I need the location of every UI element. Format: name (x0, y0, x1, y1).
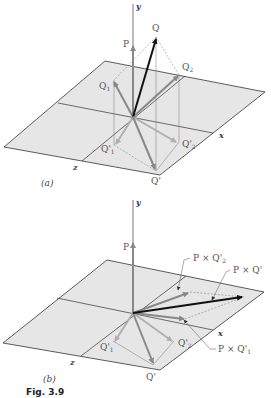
panel-b-label: (b) (43, 374, 56, 384)
label-P-cross-Q-prime: P × Q' (233, 265, 262, 275)
y-axis-label: y (135, 1, 142, 11)
label-P: P (123, 242, 129, 252)
label-P: P (123, 39, 129, 49)
figure-3-9: y x z P Q Q1 Q2 Q'1 Q'2 Q' (a) (0, 0, 271, 398)
y-axis-label: y (135, 197, 142, 207)
panel-b: y x z P P × Q'2 P × Q' P × Q'1 Q'1 Q'2 (3, 197, 264, 384)
x-axis-label: x (218, 130, 224, 140)
label-Q2: Q2 (182, 62, 193, 73)
label-P-cross-Q1-prime: P × Q'1 (218, 344, 251, 355)
x-axis-label: x (217, 328, 223, 338)
label-P-cross-Q2-prime: P × Q'2 (193, 253, 226, 264)
label-Q-prime: Q' (151, 176, 161, 186)
panel-a-label: (a) (41, 178, 54, 188)
z-axis-label: z (72, 162, 78, 172)
label-Q: Q (152, 23, 159, 33)
figure-caption: Fig. 3.9 (26, 387, 64, 397)
z-axis-label: z (69, 357, 75, 367)
label-Q-prime: Q' (146, 372, 156, 382)
panel-a: y x z P Q Q1 Q2 Q'1 Q'2 Q' (a) (4, 1, 265, 188)
